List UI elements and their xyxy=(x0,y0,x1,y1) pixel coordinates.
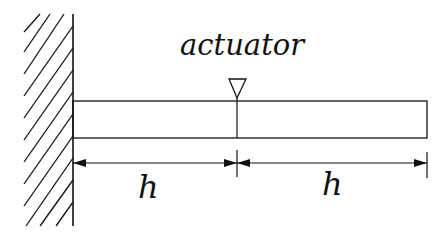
dimension-lines xyxy=(73,150,427,178)
arrow-head-icon xyxy=(224,159,237,167)
arrow-head-icon xyxy=(414,159,427,167)
actuator-triangle-icon xyxy=(229,79,246,98)
length-label-right: h xyxy=(322,165,343,203)
beam xyxy=(73,101,427,138)
wall-hatching xyxy=(24,14,73,226)
actuator-label: actuator xyxy=(180,28,304,62)
arrow-head-icon xyxy=(237,159,250,167)
arrow-head-icon xyxy=(73,159,86,167)
length-label-left: h xyxy=(138,168,159,206)
